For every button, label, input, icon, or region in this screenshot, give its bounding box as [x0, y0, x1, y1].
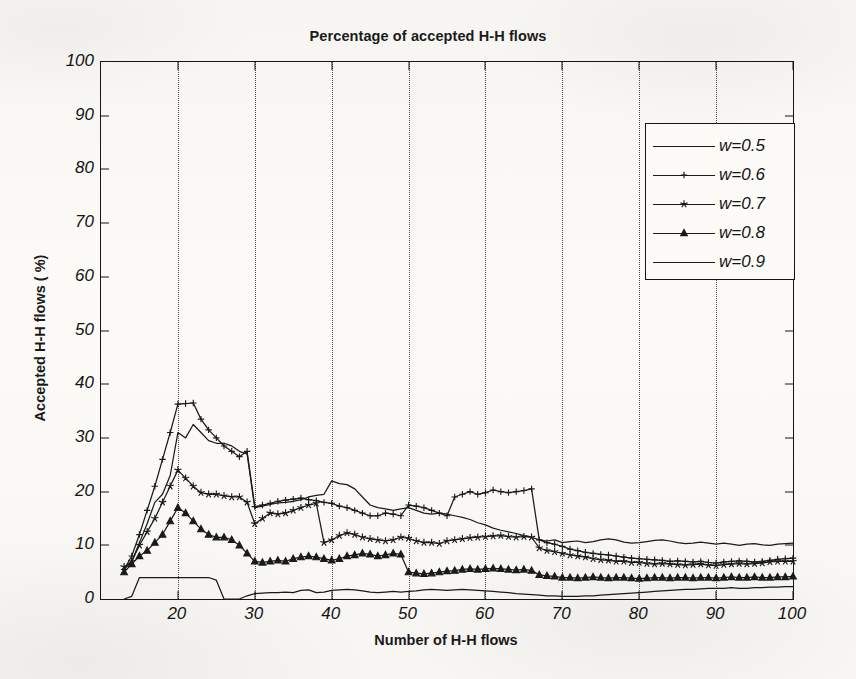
x-tick-mark-top — [485, 62, 486, 70]
x-tick-mark — [177, 591, 178, 599]
x-tick-mark — [716, 591, 717, 599]
y-tick-mark — [101, 169, 109, 170]
legend-label: w=0.5 — [719, 136, 765, 156]
legend-line-sample — [653, 168, 715, 182]
x-tick-label: 30 — [244, 604, 263, 624]
series-markers-plus — [121, 400, 796, 573]
x-tick-mark — [485, 591, 486, 599]
x-axis-tick-labels: 2030405060708090100 — [100, 604, 792, 634]
y-tick-mark-right — [785, 545, 793, 546]
legend-item-w-0-8[interactable]: w=0.8 — [646, 217, 794, 248]
x-tick-mark-top — [408, 62, 409, 70]
y-tick-label: 80 — [75, 158, 94, 178]
legend-item-w-0-6[interactable]: w=0.6 — [646, 159, 794, 190]
y-tick-mark-right — [785, 115, 793, 116]
series-w-0-7 — [120, 466, 796, 570]
y-tick-label: 20 — [75, 481, 94, 501]
x-tick-mark-top — [331, 62, 332, 70]
legend: w=0.5w=0.6w=0.7w=0.8w=0.9 — [645, 123, 795, 280]
y-tick-mark — [101, 223, 109, 224]
y-tick-label: 60 — [75, 266, 94, 286]
y-tick-label: 50 — [75, 320, 94, 340]
y-tick-mark-right — [785, 384, 793, 385]
y-tick-mark — [101, 384, 109, 385]
y-tick-mark — [101, 491, 109, 492]
legend-label: w=0.9 — [719, 252, 765, 272]
x-tick-label: 80 — [629, 604, 648, 624]
x-tick-mark — [562, 591, 563, 599]
x-tick-mark — [793, 591, 794, 599]
legend-sample-stroke — [653, 146, 715, 147]
series-line — [124, 403, 793, 569]
legend-marker-star-icon — [653, 197, 715, 211]
y-tick-label: 90 — [75, 105, 94, 125]
series-w-0-6 — [121, 400, 796, 573]
series-markers-star — [120, 466, 796, 570]
legend-line-sample — [653, 139, 715, 153]
x-tick-mark — [254, 591, 255, 599]
y-tick-mark — [101, 545, 109, 546]
y-tick-label: 100 — [66, 51, 94, 71]
y-tick-label: 70 — [75, 212, 94, 232]
x-tick-mark-top — [716, 62, 717, 70]
legend-line-sample — [653, 197, 715, 211]
legend-label: w=0.8 — [719, 223, 765, 243]
y-tick-mark-right — [785, 437, 793, 438]
series-line — [124, 470, 793, 567]
legend-item-w-0-7[interactable]: w=0.7 — [646, 188, 794, 219]
y-tick-label: 40 — [75, 373, 94, 393]
x-tick-mark-top — [639, 62, 640, 70]
x-tick-mark — [331, 591, 332, 599]
legend-label: w=0.7 — [719, 194, 765, 214]
y-tick-mark — [101, 115, 109, 116]
x-tick-label: 20 — [167, 604, 186, 624]
y-tick-mark-right — [785, 330, 793, 331]
y-tick-mark — [101, 276, 109, 277]
legend-line-sample — [653, 226, 715, 240]
x-tick-label: 70 — [552, 604, 571, 624]
legend-marker-plus-icon — [653, 168, 715, 182]
legend-item-w-0-9[interactable]: w=0.9 — [646, 246, 794, 277]
x-tick-label: 60 — [475, 604, 494, 624]
legend-sample-stroke — [653, 262, 715, 263]
x-tick-label: 100 — [778, 604, 806, 624]
legend-item-w-0-5[interactable]: w=0.5 — [646, 130, 794, 161]
chart-figure: Percentage of accepted H-H flows Accepte… — [0, 0, 856, 679]
x-tick-mark-top — [562, 62, 563, 70]
y-axis-tick-labels: 0102030405060708090100 — [36, 61, 94, 598]
x-tick-label: 50 — [398, 604, 417, 624]
y-tick-mark-right — [785, 491, 793, 492]
x-axis-title: Number of H-H flows — [100, 632, 792, 648]
y-tick-label: 0 — [85, 588, 94, 608]
chart-title: Percentage of accepted H-H flows — [0, 28, 856, 44]
y-tick-mark — [101, 437, 109, 438]
x-tick-mark-top — [177, 62, 178, 70]
legend-label: w=0.6 — [719, 165, 765, 185]
y-tick-label: 30 — [75, 427, 94, 447]
y-tick-label: 10 — [75, 534, 94, 554]
legend-marker-triangle-icon — [653, 226, 715, 240]
y-tick-mark — [101, 330, 109, 331]
x-tick-label: 40 — [321, 604, 340, 624]
x-tick-mark — [639, 591, 640, 599]
x-tick-mark — [408, 591, 409, 599]
legend-line-sample — [653, 255, 715, 269]
x-tick-label: 90 — [706, 604, 725, 624]
x-tick-mark-top — [254, 62, 255, 70]
x-tick-mark-top — [793, 62, 794, 70]
